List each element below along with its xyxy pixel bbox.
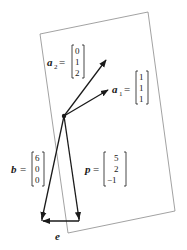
a2-right-bracket bbox=[82, 45, 84, 78]
a1-name: a bbox=[112, 83, 118, 95]
label-a1: a 1 = 1 1 1 bbox=[112, 71, 148, 104]
a2-equals: = bbox=[59, 56, 65, 68]
b-right-bracket bbox=[42, 152, 44, 186]
a2-left-bracket bbox=[72, 45, 74, 78]
a2-component-2: 1 bbox=[75, 57, 80, 67]
a1-component-1: 1 bbox=[139, 72, 144, 82]
a1-equals: = bbox=[124, 83, 130, 95]
vector-b-arrow bbox=[42, 116, 64, 219]
a1-component-2: 1 bbox=[139, 83, 144, 93]
origin-point bbox=[62, 114, 66, 118]
p-left-bracket bbox=[104, 152, 106, 186]
label-e: e bbox=[55, 230, 60, 242]
p-component-2: 2 bbox=[114, 164, 119, 174]
label-b: b = 6 0 0 bbox=[11, 152, 44, 186]
vector-a2-arrow bbox=[64, 60, 106, 116]
b-left-bracket bbox=[32, 152, 34, 186]
vector-a1-arrow bbox=[64, 90, 108, 116]
a1-right-bracket bbox=[146, 71, 148, 104]
label-p: p = 5 2 −1 bbox=[84, 152, 126, 186]
a1-subscript: 1 bbox=[119, 90, 123, 98]
a2-component-3: 2 bbox=[75, 68, 80, 78]
a1-component-3: 1 bbox=[139, 94, 144, 104]
b-component-1: 6 bbox=[35, 153, 40, 163]
p-component-3: −1 bbox=[107, 175, 117, 185]
a2-subscript: 2 bbox=[54, 63, 58, 71]
b-component-2: 0 bbox=[35, 164, 40, 174]
b-equals: = bbox=[20, 163, 26, 175]
b-component-3: 0 bbox=[35, 175, 40, 185]
a2-component-1: 0 bbox=[75, 46, 80, 56]
a2-name: a bbox=[47, 56, 53, 68]
p-component-1: 5 bbox=[114, 153, 119, 163]
p-name: p bbox=[84, 163, 91, 175]
column-space-plane bbox=[40, 12, 175, 233]
b-name: b bbox=[11, 163, 17, 175]
p-equals: = bbox=[93, 163, 99, 175]
p-right-bracket bbox=[124, 152, 126, 186]
vector-p-arrow bbox=[64, 116, 79, 219]
projection-diagram: a 2 = 0 1 2 a 1 = 1 1 1 b = 6 0 0 p = 5 … bbox=[0, 0, 187, 250]
label-a2: a 2 = 0 1 2 bbox=[47, 45, 84, 78]
a1-left-bracket bbox=[136, 71, 138, 104]
